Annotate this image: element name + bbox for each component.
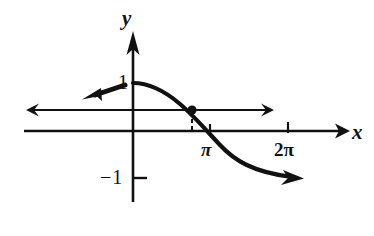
cosine-curve [133, 83, 304, 185]
figure-canvas [0, 0, 374, 236]
tick-label-one: 1 [118, 72, 128, 92]
tick-label-pi: π [201, 140, 211, 159]
intersection-point [187, 105, 196, 114]
math-figure: y x 1 −1 π 2π [0, 0, 374, 236]
tick-label-negative-one: −1 [100, 167, 123, 187]
tick-label-two-pi: 2π [274, 140, 294, 159]
x-axis [24, 124, 350, 139]
horizontal-reference-line [26, 104, 274, 117]
pointer-arrowhead-icon [82, 88, 102, 101]
y-axis [127, 31, 140, 202]
x-axis-label: x [352, 122, 363, 143]
y-axis-label: y [122, 8, 131, 29]
